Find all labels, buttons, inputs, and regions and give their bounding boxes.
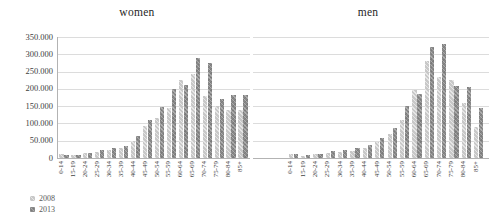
bar-2013-40-44 — [136, 136, 140, 158]
bar-2008-70-74 — [437, 77, 441, 158]
y-axis-tick-label: 350.000 — [9, 33, 53, 42]
gridline — [253, 54, 489, 55]
bar-2013-15-19 — [76, 155, 80, 158]
bar-2013-70-74 — [208, 63, 212, 158]
bar-2008-50-54 — [388, 134, 392, 158]
bar-2013-35-39 — [124, 146, 128, 158]
bar-2008-50-54 — [155, 118, 159, 158]
x-axis-tick-label: 30-34 — [105, 161, 114, 177]
x-axis-tick-label: 45-49 — [141, 161, 150, 177]
gridline — [57, 89, 250, 90]
bar-2008-40-44 — [131, 141, 135, 158]
bar-2008-35-39 — [119, 148, 123, 158]
bar-2013-80-84 — [231, 95, 235, 158]
x-axis-tick-label: 35-39 — [117, 161, 126, 177]
x-axis-tick-label: 60-64 — [410, 161, 419, 177]
gridline — [253, 37, 489, 38]
bar-2013-45-49 — [380, 138, 384, 158]
bar-2013-20-24 — [318, 154, 322, 159]
bar-2013-50-54 — [160, 107, 164, 159]
bar-2013-50-54 — [393, 128, 397, 158]
y-axis-tick-label: 150.000 — [9, 102, 53, 111]
x-axis-tick-label: 30-34 — [336, 161, 345, 177]
x-axis-tick-label: 65-69 — [188, 161, 197, 177]
bar-2013-65-69 — [196, 58, 200, 158]
gridline — [57, 72, 250, 73]
bar-2008-55-59 — [167, 108, 171, 158]
x-axis-tick-label: 50-54 — [385, 161, 394, 177]
gridline — [57, 54, 250, 55]
legend-item-2013: 2013 — [30, 204, 55, 215]
x-axis-tick-label: 55-59 — [398, 161, 407, 177]
bar-2013-20-24 — [88, 153, 92, 159]
x-axis-tick-label: 20-24 — [81, 161, 90, 177]
x-axis-tick-label: 0-14 — [57, 161, 66, 174]
bar-2008-15-19 — [301, 156, 305, 158]
legend-label-2008: 2008 — [39, 194, 55, 203]
bar-2008-15-19 — [71, 155, 75, 158]
y-axis-line — [57, 37, 58, 158]
bar-2008-60-64 — [179, 80, 183, 158]
bar-2013-0-14 — [64, 155, 68, 159]
bar-2008-0-14 — [59, 154, 63, 158]
bar-2008-40-44 — [363, 148, 367, 158]
chart-canvas: women men 2008 2013 350.000300.000250.00… — [0, 0, 493, 224]
bar-2008-45-49 — [143, 126, 147, 158]
x-axis-tick-label: 25-29 — [93, 161, 102, 177]
y-axis-tick-label: 100.000 — [9, 119, 53, 128]
y-axis-tick-label: 200.000 — [9, 84, 53, 93]
x-axis-tick-label: 45-49 — [373, 161, 382, 177]
x-axis-tick-label: 40-44 — [129, 161, 138, 177]
bar-2013-30-34 — [343, 150, 347, 158]
y-axis-tick-label: 0 — [9, 154, 53, 163]
x-axis-tick-label: 85+ — [236, 161, 245, 172]
bar-2013-65-69 — [430, 47, 434, 158]
bar-2013-60-64 — [417, 94, 421, 158]
x-axis-tick-label: 75-79 — [447, 161, 456, 177]
bar-2013-60-64 — [184, 85, 188, 158]
chart-title-men: men — [253, 6, 483, 18]
bar-2008-80-84 — [462, 103, 466, 158]
bar-2008-55-59 — [400, 120, 404, 158]
bar-2008-75-79 — [449, 80, 453, 158]
bar-2008-0-14 — [289, 154, 293, 159]
bar-2008-35-39 — [350, 151, 354, 158]
y-axis-tick-label: 250.000 — [9, 67, 53, 76]
bar-2008-65-69 — [191, 74, 195, 158]
x-axis-line — [57, 158, 250, 159]
bar-2008-30-34 — [338, 152, 342, 158]
bar-2008-85+ — [474, 127, 478, 158]
bar-2013-25-29 — [100, 150, 104, 158]
x-axis-tick-label: 15-19 — [299, 161, 308, 177]
x-axis-tick-label: 80-84 — [459, 161, 468, 177]
legend: 2008 2013 — [30, 193, 55, 215]
bar-2008-25-29 — [95, 152, 99, 158]
bar-2013-70-74 — [442, 44, 446, 158]
bar-2013-15-19 — [306, 155, 310, 159]
legend-swatch-2013 — [30, 207, 35, 212]
x-axis-tick-label: 70-74 — [200, 161, 209, 177]
bar-2013-0-14 — [294, 154, 298, 159]
x-axis-tick-label: 50-54 — [153, 161, 162, 177]
legend-label-2013: 2013 — [39, 205, 55, 214]
bar-2008-70-74 — [203, 96, 207, 158]
x-axis-tick-label: 15-19 — [69, 161, 78, 177]
x-axis-tick-label: 35-39 — [348, 161, 357, 177]
x-axis-line — [253, 158, 489, 159]
gridline — [253, 72, 489, 73]
bar-2013-30-34 — [112, 148, 116, 158]
bar-2008-60-64 — [412, 90, 416, 158]
x-axis-tick-label: 0-14 — [286, 161, 295, 174]
x-axis-tick-label: 70-74 — [435, 161, 444, 177]
x-axis-tick-label: 20-24 — [311, 161, 320, 177]
gridline — [57, 37, 250, 38]
bar-2013-55-59 — [405, 106, 409, 158]
bar-2013-75-79 — [454, 86, 458, 158]
legend-item-2008: 2008 — [30, 193, 55, 204]
bar-2008-85+ — [238, 110, 242, 158]
x-axis-tick-label: 25-29 — [323, 161, 332, 177]
x-axis-tick-label: 65-69 — [422, 161, 431, 177]
bar-2008-25-29 — [326, 153, 330, 158]
bar-2013-45-49 — [148, 120, 152, 158]
x-axis-tick-label: 60-64 — [176, 161, 185, 177]
